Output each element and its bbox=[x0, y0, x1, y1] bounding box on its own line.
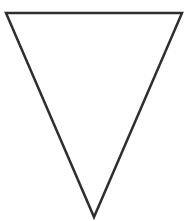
triangle-svg bbox=[0, 0, 194, 221]
inverted-triangle-shape bbox=[6, 13, 182, 217]
diagram-canvas bbox=[0, 0, 194, 221]
